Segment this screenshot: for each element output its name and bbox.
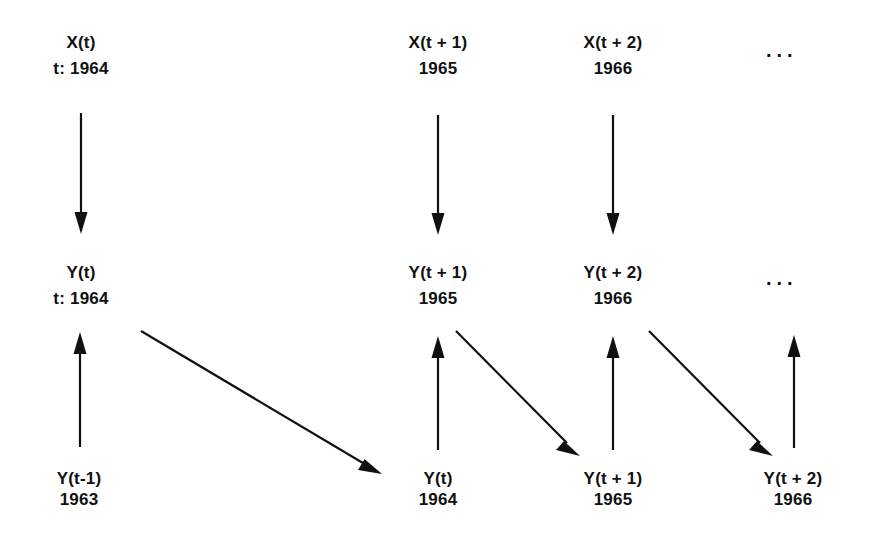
arrow-ylag-t2-to-next [788,335,801,448]
node-x-t-plus-2: X(t + 2) 1966 [532,34,694,77]
node-year: 1965 [357,290,519,307]
node-year: 1963 [0,491,158,508]
ellipsis-y-row: ... [766,268,798,288]
node-symbol: Y(t) [357,470,519,487]
node-symbol: Y(t + 1) [357,264,519,281]
node-x-t: X(t) t: 1964 [0,34,162,77]
node-x-t-plus-1: X(t + 1) 1965 [357,34,519,77]
node-year: 1964 [357,491,519,508]
node-year: t: 1964 [0,290,162,307]
node-symbol: X(t + 2) [532,34,694,51]
arrow-ylag-t1-to-y-t2 [607,336,620,450]
node-symbol: X(t) [0,34,162,51]
arrow-x-t1-to-y-t1 [432,115,445,235]
arrow-x-t-to-y-t [75,113,88,234]
node-year: 1966 [532,60,694,77]
node-symbol: Y(t + 1) [532,470,694,487]
node-symbol: Y(t + 2) [712,470,873,487]
node-symbol: X(t + 1) [357,34,519,51]
node-symbol: Y(t) [0,264,162,281]
arrow-ylag-t-to-y-t1 [432,336,445,450]
node-year: 1965 [357,60,519,77]
node-symbol: Y(t-1) [0,470,158,487]
node-symbol: Y(t + 2) [532,264,694,281]
arrow-diagonal-y-t2-to-ylag-t2 [649,331,773,456]
node-ylag-t-plus-2: Y(t + 2) 1966 [712,470,873,508]
node-y-t-plus-2: Y(t + 2) 1966 [532,264,694,307]
node-y-t-plus-1: Y(t + 1) 1965 [357,264,519,307]
ellipsis-x-row: ... [766,40,798,60]
node-year: 1966 [712,491,873,508]
node-year: 1966 [532,290,694,307]
node-year: 1965 [532,491,694,508]
diagram-canvas: X(t) t: 1964 X(t + 1) 1965 X(t + 2) 1966… [0,0,873,537]
node-y-t: Y(t) t: 1964 [0,264,162,307]
node-ylag-t-plus-1: Y(t + 1) 1965 [532,470,694,508]
arrow-ylag-tm1-to-y-t [74,332,87,447]
arrow-diagonal-y-t-to-ylag-t [141,331,382,474]
node-ylag-t-minus-1: Y(t-1) 1963 [0,470,158,508]
node-ylag-t: Y(t) 1964 [357,470,519,508]
arrow-diagonal-y-t1-to-ylag-t1 [456,331,580,456]
node-year: t: 1964 [0,60,162,77]
arrow-x-t2-to-y-t2 [607,115,620,235]
